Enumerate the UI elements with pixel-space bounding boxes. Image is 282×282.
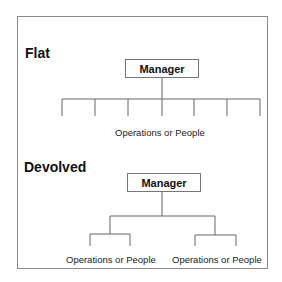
flat-children-label: Operations or People: [115, 128, 205, 138]
devolved-manager-box: Manager: [127, 173, 201, 192]
devolved-heading: Devolved: [24, 160, 86, 174]
devolved-branch-left-label: Operations or People: [66, 255, 156, 265]
connector-lines: [0, 0, 282, 282]
devolved-branch-right-label: Operations or People: [172, 255, 262, 265]
flat-manager-box: Manager: [125, 59, 199, 78]
flat-heading: Flat: [25, 46, 50, 60]
